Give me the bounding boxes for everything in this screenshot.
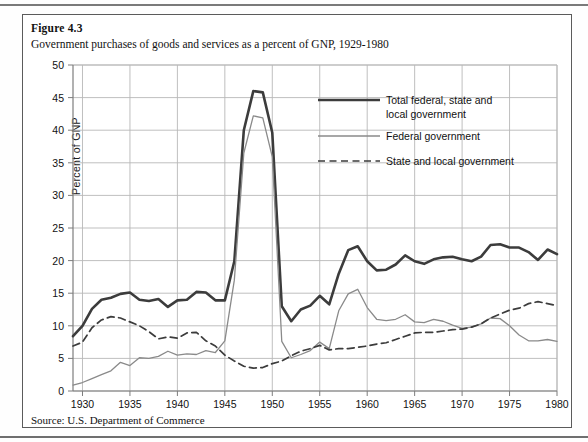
x-tick-label: 1945 bbox=[213, 398, 237, 410]
y-tick-label: 30 bbox=[52, 189, 64, 201]
y-tick-label: 10 bbox=[52, 320, 64, 332]
legend-label: Federal government bbox=[386, 130, 480, 142]
line-chart: 0510152025303540455019301935194019451950… bbox=[0, 0, 588, 442]
x-tick-label: 1950 bbox=[261, 398, 285, 410]
y-tick-label: 45 bbox=[52, 92, 64, 104]
legend-label-continued: local government bbox=[386, 108, 466, 120]
y-tick-label: 20 bbox=[52, 255, 64, 267]
x-tick-label: 1980 bbox=[545, 398, 569, 410]
legend-label: State and local government bbox=[386, 155, 514, 167]
y-tick-label: 50 bbox=[52, 59, 64, 71]
y-tick-label: 25 bbox=[52, 222, 64, 234]
y-tick-label: 40 bbox=[52, 124, 64, 136]
x-tick-label: 1970 bbox=[450, 398, 474, 410]
x-tick-label: 1960 bbox=[356, 398, 380, 410]
y-tick-label: 15 bbox=[52, 287, 64, 299]
x-tick-label: 1965 bbox=[403, 398, 427, 410]
x-tick-label: 1940 bbox=[166, 398, 190, 410]
chart-plot-area: Percent of GNP 0510152025303540455019301… bbox=[0, 0, 588, 442]
y-tick-label: 5 bbox=[58, 352, 64, 364]
y-tick-label: 35 bbox=[52, 157, 64, 169]
legend-label: Total federal, state and bbox=[386, 94, 492, 106]
x-tick-label: 1975 bbox=[498, 398, 522, 410]
x-tick-label: 1955 bbox=[308, 398, 332, 410]
figure-page: Figure 4.3 Government purchases of goods… bbox=[0, 0, 588, 442]
x-tick-label: 1935 bbox=[118, 398, 142, 410]
y-tick-label: 0 bbox=[58, 385, 64, 397]
data-series-line bbox=[73, 91, 557, 336]
x-tick-label: 1930 bbox=[71, 398, 95, 410]
